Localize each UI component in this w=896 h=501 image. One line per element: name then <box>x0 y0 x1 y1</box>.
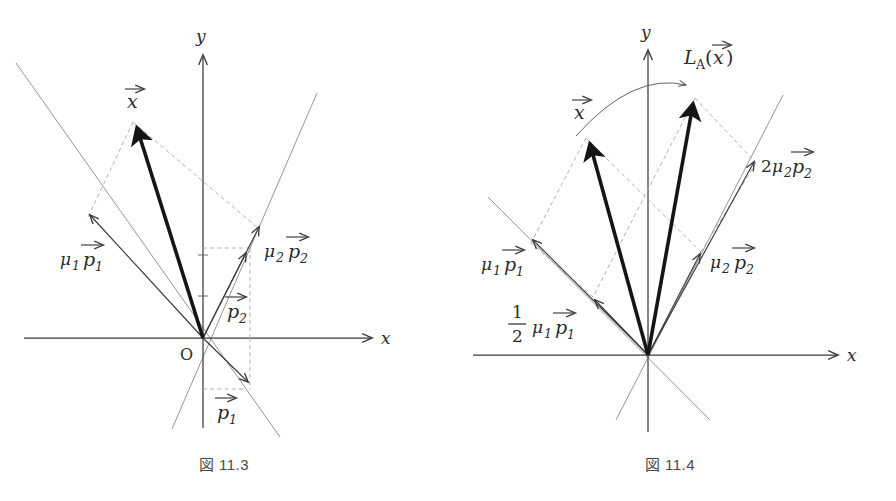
p2-subscript: 2 <box>803 166 812 181</box>
mu2-symbol: μ <box>772 156 783 176</box>
p2-unit-subscript: 2 <box>238 311 247 326</box>
p2-symbol: p <box>792 155 804 177</box>
mu1-symbol: μ <box>481 254 492 274</box>
origin-label: O <box>180 345 193 364</box>
mu2-subscript: 2 <box>721 261 730 276</box>
LAx-arg-symbol: x <box>713 46 724 68</box>
mu2-subscript: 2 <box>783 165 792 180</box>
p1-subscript: 1 <box>567 327 575 342</box>
fraction-numerator: 1 <box>512 302 523 322</box>
p1-subscript: 1 <box>516 264 524 279</box>
mu1-subscript: 1 <box>544 326 552 341</box>
x-vector <box>590 144 648 355</box>
p1-symbol: p <box>555 316 567 338</box>
p1-unit-subscript: 1 <box>229 412 237 427</box>
p1-symbol: p <box>504 253 516 275</box>
transformation-arc <box>576 83 686 136</box>
guide-half-mu1p1-vertical <box>531 243 593 297</box>
y-axis-label: y <box>195 26 206 46</box>
mu2-symbol: μ <box>264 241 275 261</box>
figure-pair-container: y x O x μ 1 p 1 μ 2 p <box>0 0 896 501</box>
figure-caption: 図 11.3 <box>199 456 249 473</box>
two-coefficient: 2 <box>761 156 772 176</box>
figure-11-4: y x x L A ( x ) 2 μ 2 p <box>448 0 896 501</box>
guide-LAx-to-half-mu1p1 <box>593 98 695 297</box>
x-axis-label: x <box>847 345 857 365</box>
guide-x-to-mu1p1 <box>531 138 586 243</box>
LAx-label: L A ( x ) <box>683 45 733 72</box>
guide-LAx-to-2mu2p2 <box>695 98 756 163</box>
mu2-symbol: μ <box>710 252 721 272</box>
p1-unit-symbol: p <box>217 401 229 423</box>
LAx-open-paren: ( <box>705 46 712 68</box>
LAx-vector <box>648 104 693 355</box>
mu1-p1-label: μ 1 p 1 <box>60 245 103 274</box>
p2-symbol: p <box>288 240 300 262</box>
x-label-text: x <box>574 101 585 123</box>
x-axis-label: x <box>381 328 391 348</box>
LAx-close-paren: ) <box>726 46 733 68</box>
p1-symbol: p <box>83 248 95 270</box>
eigen-line-p1 <box>16 63 280 437</box>
p2-unit-label: p 2 <box>225 297 247 326</box>
x-vector-label: x <box>125 89 144 112</box>
x-vector-label: x <box>572 100 591 123</box>
guide-x-to-mu1p1 <box>88 122 133 217</box>
two-mu2-p2-label: 2 μ 2 p 2 <box>761 152 813 181</box>
LAx-L-symbol: L <box>683 46 697 68</box>
mu1-subscript: 1 <box>493 263 501 278</box>
p1-unit-vector <box>203 338 248 382</box>
mu1-subscript: 1 <box>72 258 80 273</box>
fraction-denominator: 2 <box>512 326 523 346</box>
mu2-subscript: 2 <box>275 250 284 265</box>
x-label-text: x <box>127 90 138 112</box>
eigen-line-p2 <box>616 95 783 420</box>
mu1-symbol: μ <box>60 249 71 269</box>
figure-caption: 図 11.4 <box>645 456 695 473</box>
p2-unit-symbol: p <box>227 300 239 322</box>
p2-symbol: p <box>734 251 746 273</box>
mu1-p1-vector <box>90 215 203 338</box>
mu1-symbol: μ <box>532 317 543 337</box>
p1-subscript: 1 <box>95 259 103 274</box>
x-vector <box>137 128 203 338</box>
mu2-p2-label: μ 2 p 2 <box>264 237 308 266</box>
p1-unit-label: p 1 <box>215 398 237 427</box>
mu2-p2-label: μ 2 p 2 <box>710 248 754 277</box>
p2-subscript: 2 <box>745 262 754 277</box>
p2-subscript: 2 <box>299 251 308 266</box>
half-mu1-p1-label: 1 2 μ 1 p 1 <box>508 302 575 346</box>
figure-11-3: y x O x μ 1 p 1 μ 2 p <box>0 0 448 501</box>
mu1-p1-label: μ 1 p 1 <box>481 250 524 279</box>
y-axis-label: y <box>640 22 651 42</box>
